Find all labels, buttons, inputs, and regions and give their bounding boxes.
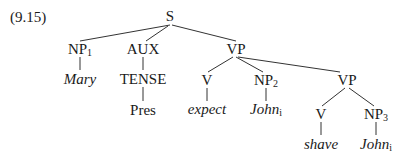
leaf-mary: Mary [64, 71, 97, 87]
node-np3: NP3 [364, 106, 388, 122]
leaf-john-2-index: i [389, 142, 392, 153]
node-np3-label: NP [364, 106, 383, 122]
node-np2-label: NP [254, 72, 273, 88]
leaf-john-2: Johni [360, 136, 392, 152]
node-np1-label: NP [68, 41, 87, 57]
node-np2-subscript: 2 [273, 78, 278, 89]
node-v-upper: V [202, 72, 213, 88]
node-np1: NP1 [68, 41, 92, 57]
node-np2: NP2 [254, 72, 278, 88]
leaf-pres: Pres [130, 102, 156, 118]
leaf-john-1-label: John [250, 101, 279, 117]
node-vp-lower: VP [337, 72, 356, 88]
node-s: S [166, 8, 174, 24]
leaf-expect: expect [188, 101, 226, 117]
node-vp-upper: VP [226, 41, 245, 57]
leaf-john-1-index: i [279, 107, 282, 118]
leaf-shave: shave [304, 136, 338, 152]
node-np3-subscript: 3 [383, 112, 388, 123]
node-tense: TENSE [120, 71, 167, 87]
leaf-john-1: Johni [250, 101, 282, 117]
node-v-lower: V [316, 106, 327, 122]
node-aux: AUX [127, 41, 160, 57]
leaf-john-2-label: John [360, 136, 389, 152]
node-np1-subscript: 1 [87, 47, 92, 58]
